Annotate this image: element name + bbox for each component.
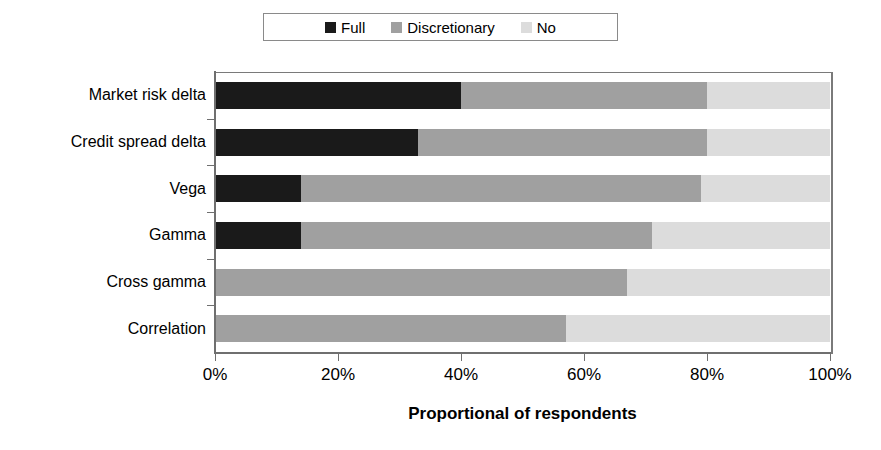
bar-segment-discretionary	[461, 82, 707, 109]
bar-segment-full	[215, 222, 301, 249]
y-axis-label-gamma: Gamma	[0, 227, 206, 243]
legend-label-no: No	[537, 20, 556, 35]
bar-row	[215, 175, 830, 202]
legend-item-no: No	[521, 20, 556, 35]
bar-row	[215, 82, 830, 109]
legend-swatch-discretionary	[391, 22, 402, 33]
y-axis-label-vega: Vega	[0, 181, 206, 197]
legend-item-full: Full	[325, 20, 365, 35]
bar-segment-full	[215, 82, 461, 109]
x-axis-tick	[215, 354, 216, 361]
bar-row	[215, 129, 830, 156]
x-axis-tick-label: 80%	[690, 366, 724, 384]
legend-label-discretionary: Discretionary	[407, 20, 495, 35]
x-axis-title: Proportional of respondents	[215, 404, 830, 424]
bar-segment-no	[701, 175, 830, 202]
y-axis-tick	[207, 212, 215, 213]
x-axis-tick-label: 100%	[808, 366, 851, 384]
legend-swatch-no	[521, 22, 532, 33]
x-axis-tick-label: 20%	[321, 366, 355, 384]
legend-swatch-full	[325, 22, 336, 33]
bar-segment-discretionary	[418, 129, 707, 156]
bar-segment-no	[566, 315, 830, 342]
bar-row	[215, 269, 830, 296]
chart-legend: Full Discretionary No	[263, 13, 618, 41]
bar-segment-no	[707, 129, 830, 156]
bar-segment-no	[627, 269, 830, 296]
x-axis-tick	[707, 354, 708, 361]
x-axis-tick-label: 60%	[567, 366, 601, 384]
x-axis-tick	[830, 354, 831, 361]
x-axis-tick	[584, 354, 585, 361]
y-axis-label-credit-spread-delta: Credit spread delta	[0, 134, 206, 150]
y-axis-label-correlation: Correlation	[0, 321, 206, 337]
y-axis-label-market-risk-delta: Market risk delta	[0, 87, 206, 103]
y-axis-tick	[207, 259, 215, 260]
y-axis-tick	[207, 305, 215, 306]
bar-row	[215, 222, 830, 249]
y-axis-category-labels: Market risk deltaCredit spread deltaVega…	[0, 72, 206, 352]
legend-label-full: Full	[341, 20, 365, 35]
bar-segment-no	[652, 222, 830, 249]
stacked-bar-chart: Full Discretionary No Market risk deltaC…	[0, 0, 881, 450]
bar-row	[215, 315, 830, 342]
bar-segment-discretionary	[215, 315, 566, 342]
legend-item-discretionary: Discretionary	[391, 20, 495, 35]
x-axis-line	[214, 352, 831, 354]
bar-segment-discretionary	[301, 222, 652, 249]
bar-segment-discretionary	[301, 175, 701, 202]
bar-segment-full	[215, 175, 301, 202]
bar-segment-no	[707, 82, 830, 109]
y-axis-tick	[207, 165, 215, 166]
x-axis-tick-label: 40%	[444, 366, 478, 384]
bar-segment-full	[215, 129, 418, 156]
y-axis-tick	[207, 119, 215, 120]
x-axis-tick	[338, 354, 339, 361]
y-axis-label-cross-gamma: Cross gamma	[0, 274, 206, 290]
x-axis-tick-label: 0%	[203, 366, 228, 384]
bars-layer	[215, 72, 830, 352]
bar-segment-discretionary	[215, 269, 627, 296]
x-axis-tick	[461, 354, 462, 361]
